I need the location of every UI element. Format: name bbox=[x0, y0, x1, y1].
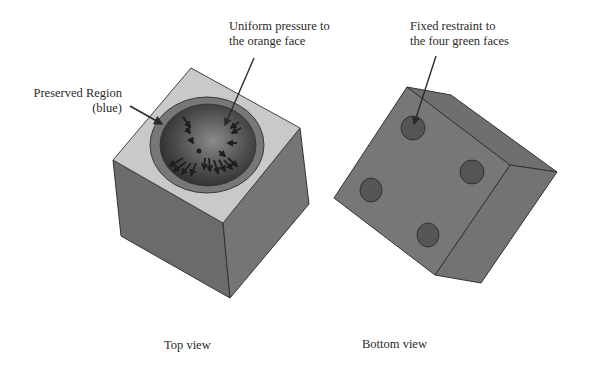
preserved-region-line2: (blue) bbox=[32, 101, 122, 116]
fixed-restraint-label: Fixed restraint to the four green faces bbox=[410, 19, 509, 49]
preserved-region-label: Preserved Region (blue) bbox=[32, 86, 122, 116]
diagram-canvas bbox=[0, 0, 591, 368]
fixed-restraint-line1: Fixed restraint to bbox=[410, 19, 509, 34]
restraint-disk-bottom bbox=[417, 223, 439, 247]
top-view-cube bbox=[113, 68, 309, 298]
uniform-pressure-label: Uniform pressure to the orange face bbox=[229, 19, 330, 49]
uniform-pressure-line2: the orange face bbox=[229, 34, 330, 49]
fixed-restraint-line2: the four green faces bbox=[410, 34, 509, 49]
restraint-disk-left bbox=[360, 178, 382, 202]
restraint-disk-top bbox=[401, 116, 425, 140]
bottom-view-cube bbox=[334, 87, 557, 283]
bottom-view-caption: Bottom view bbox=[362, 337, 427, 352]
preserved-region-line1: Preserved Region bbox=[32, 86, 122, 101]
pressure-face bbox=[160, 104, 256, 186]
top-view-caption: Top view bbox=[164, 338, 211, 353]
restraint-disk-right bbox=[460, 160, 484, 184]
uniform-pressure-line1: Uniform pressure to bbox=[229, 19, 330, 34]
